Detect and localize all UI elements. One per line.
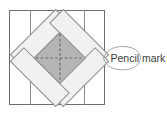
diagram-canvas: Pencil mark	[0, 0, 166, 117]
folding-diagram: Pencil mark	[0, 0, 166, 117]
callout-label: Pencil mark	[111, 52, 167, 64]
